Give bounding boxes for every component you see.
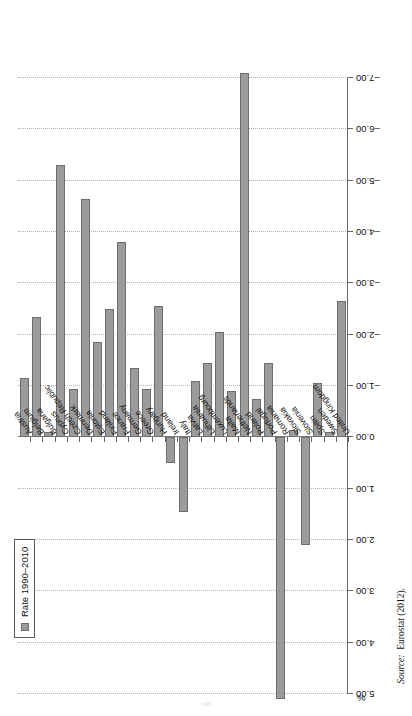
axis-tick (348, 642, 353, 643)
axis-tick (348, 77, 353, 78)
axis-tick-label: –7.00 (356, 73, 380, 84)
gridline-neg7.00 (18, 77, 348, 78)
axis-tick-label: 1.00 (356, 483, 375, 494)
axis-tick (348, 231, 353, 232)
gridline-neg1.00 (18, 385, 348, 386)
category-tick (336, 437, 337, 442)
axis-tick-label: 0.00 (356, 432, 375, 443)
category-tick (214, 437, 215, 442)
category-tick (104, 437, 105, 442)
axis-tick (348, 282, 353, 283)
axis-tick-label: –2.00 (356, 329, 380, 340)
gridline-3.00 (18, 590, 348, 591)
figure-stage: AustriaBelgiumBulgariaCyprusCzech Republ… (0, 0, 412, 716)
category-tick (30, 437, 31, 442)
category-tick (311, 437, 312, 442)
category-tick (250, 437, 251, 442)
chart-legend: Rate 1990–2010 (14, 539, 35, 638)
bar-slovenia (301, 437, 310, 545)
source-caption: Source: Eurostat (2012). (396, 588, 406, 684)
chart-plot-area: AustriaBelgiumBulgariaCyprusCzech Republ… (18, 78, 348, 694)
bar-italy (179, 437, 188, 511)
category-tick (189, 437, 190, 442)
axis-tick-label: –6.00 (356, 124, 380, 135)
category-tick (348, 437, 349, 442)
axis-tick (348, 334, 353, 335)
axis-tick-label: –1.00 (356, 381, 380, 392)
axis-tick (348, 385, 353, 386)
axis-tick-label: –3.00 (356, 278, 380, 289)
category-tick (55, 437, 56, 442)
source-prefix: Source: (396, 655, 406, 684)
category-tick (201, 437, 202, 442)
page-number: 108 (0, 700, 412, 708)
gridline-neg2.00 (18, 334, 348, 335)
legend-swatch-rate (21, 623, 29, 631)
gridline-neg6.00 (18, 128, 348, 129)
axis-tick (348, 488, 353, 489)
category-tick (79, 437, 80, 442)
legend-label-rate: Rate 1990–2010 (19, 547, 30, 617)
category-tick (116, 437, 117, 442)
category-tick (91, 437, 92, 442)
category-tick (324, 437, 325, 442)
axis-tick-label: –4.00 (356, 227, 380, 238)
axis-tick (348, 539, 353, 540)
gridline-5.00 (18, 693, 348, 694)
gridline-neg3.00 (18, 282, 348, 283)
category-tick (128, 437, 129, 442)
bar-ireland (166, 437, 175, 463)
category-tick (287, 437, 288, 442)
axis-tick-label: 3.00 (356, 586, 375, 597)
axis-tick (348, 180, 353, 181)
gridline-2.00 (18, 539, 348, 540)
source-text: Eurostat (2012). (396, 588, 406, 650)
category-tick (42, 437, 43, 442)
gridline-4.00 (18, 642, 348, 643)
category-tick (67, 437, 68, 442)
bar-romania (276, 437, 285, 699)
gridline-neg4.00 (18, 231, 348, 232)
axis-tick (348, 693, 353, 694)
axis-tick-label: –5.00 (356, 175, 380, 186)
bar-denmark (81, 199, 90, 438)
value-axis-line (347, 78, 348, 694)
gridline-neg5.00 (18, 180, 348, 181)
axis-tick-label: 4.00 (356, 637, 375, 648)
category-tick (226, 437, 227, 442)
category-tick (152, 437, 153, 442)
category-tick (238, 437, 239, 442)
axis-tick (348, 128, 353, 129)
axis-tick (348, 590, 353, 591)
axis-tick-label: 2.00 (356, 535, 375, 546)
bar-netherlands (240, 73, 249, 437)
category-tick (140, 437, 141, 442)
category-tick (262, 437, 263, 442)
